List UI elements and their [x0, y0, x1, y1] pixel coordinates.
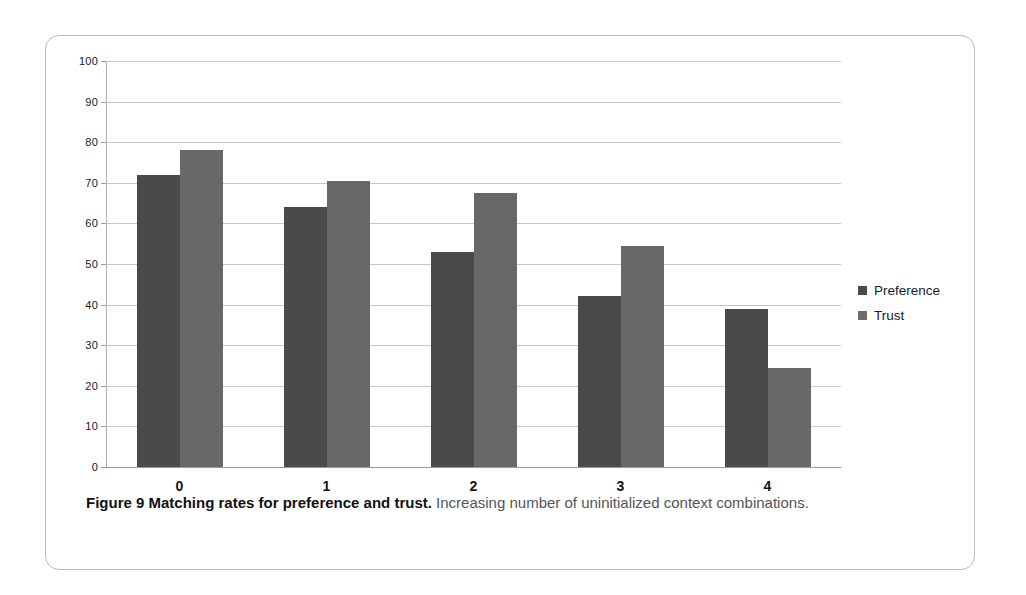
bar-preference-4 — [725, 309, 768, 467]
legend-item-preference: Preference — [858, 283, 978, 298]
bar-preference-3 — [578, 296, 621, 467]
y-axis-tick-label: 0 — [54, 461, 98, 473]
y-axis-tick-label: 20 — [54, 380, 98, 392]
bar-preference-0 — [137, 175, 180, 467]
y-axis-tick-label: 40 — [54, 299, 98, 311]
caption-title: Figure 9 Matching rates for preference a… — [86, 494, 432, 511]
legend-label: Trust — [874, 308, 904, 323]
bar-preference-2 — [431, 252, 474, 467]
bar-trust-3 — [621, 246, 664, 467]
legend-swatch-trust-icon — [858, 311, 867, 320]
bar-chart: 0102030405060708090100 01234 PreferenceT… — [46, 36, 976, 486]
y-axis-tick-label: 70 — [54, 177, 98, 189]
legend-label: Preference — [874, 283, 940, 298]
legend-item-trust: Trust — [858, 308, 978, 323]
caption-description: Increasing number of uninitialized conte… — [432, 494, 809, 511]
figure-frame: 0102030405060708090100 01234 PreferenceT… — [45, 35, 975, 570]
y-axis-tick-label: 10 — [54, 420, 98, 432]
y-axis-tick-label: 80 — [54, 136, 98, 148]
bar-trust-2 — [474, 193, 517, 467]
bar-trust-4 — [768, 368, 811, 467]
y-axis-tick-label: 90 — [54, 96, 98, 108]
bar-preference-1 — [284, 207, 327, 467]
plot-area — [106, 61, 841, 467]
figure-caption: Figure 9 Matching rates for preference a… — [86, 491, 831, 514]
y-axis-tick-label: 60 — [54, 217, 98, 229]
legend-swatch-preference-icon — [858, 286, 867, 295]
figure-page: 0102030405060708090100 01234 PreferenceT… — [0, 0, 1026, 595]
y-axis-tick-label: 100 — [54, 55, 98, 67]
gridline — [106, 467, 841, 468]
chart-legend: PreferenceTrust — [858, 283, 978, 333]
gridline — [106, 61, 841, 62]
y-axis-tick-label: 30 — [54, 339, 98, 351]
bar-trust-1 — [327, 181, 370, 467]
gridline — [106, 142, 841, 143]
bar-trust-0 — [180, 150, 223, 467]
y-axis-tick-label: 50 — [54, 258, 98, 270]
gridline — [106, 102, 841, 103]
